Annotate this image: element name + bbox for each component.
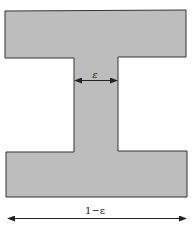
web-width-label: ε xyxy=(92,69,97,80)
i-beam-diagram: ε 1−ε xyxy=(0,0,194,235)
total-width-label: 1−ε xyxy=(85,205,105,216)
i-beam-shape xyxy=(5,10,187,197)
